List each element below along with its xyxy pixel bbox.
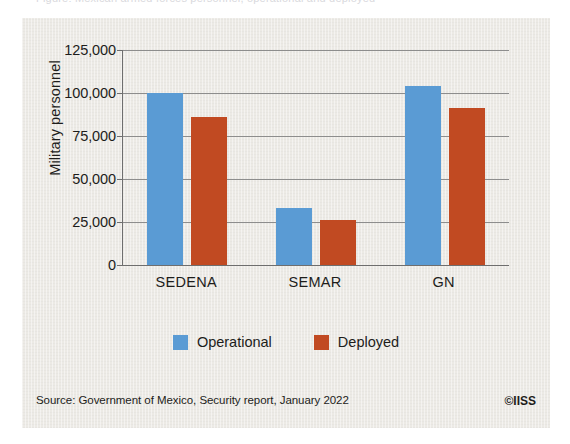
chart-legend: OperationalDeployed (22, 334, 550, 350)
y-axis-tickmark (117, 93, 123, 94)
y-axis-tickmark (117, 265, 123, 266)
bar-sedena-deployed[interactable] (191, 117, 227, 265)
cut-off-caption-text: Figure: Mexican armed forces personnel, … (36, 0, 375, 4)
y-axis-tick-label: 100,000 (38, 85, 116, 101)
bar-group-semar (276, 50, 356, 265)
cut-off-caption-strip: Figure: Mexican armed forces personnel, … (0, 0, 570, 14)
bar-sedena-operational[interactable] (147, 93, 183, 265)
bar-semar-operational[interactable] (276, 208, 312, 265)
y-axis-tickmark (117, 136, 123, 137)
bar-gn-operational[interactable] (405, 86, 441, 265)
y-axis-tick-label: 75,000 (38, 128, 116, 144)
bar-group-sedena (147, 50, 227, 265)
source-note: Source: Government of Mexico, Security r… (36, 394, 349, 406)
legend-swatch-icon (314, 335, 329, 350)
legend-item-deployed[interactable]: Deployed (314, 334, 399, 350)
bar-group-gn (405, 50, 485, 265)
legend-item-operational[interactable]: Operational (173, 334, 272, 350)
x-axis-tick-label-gn: GN (374, 274, 514, 290)
chart-plot-wrapper: Military personnel 025,00050,00075,00010… (22, 18, 550, 318)
y-axis-tickmark (117, 179, 123, 180)
bar-semar-deployed[interactable] (320, 220, 356, 265)
legend-label: Deployed (338, 334, 399, 350)
figure-panel: Military personnel 025,00050,00075,00010… (22, 18, 550, 428)
bar-gn-deployed[interactable] (449, 108, 485, 265)
plot-area (122, 50, 509, 266)
y-axis-tickmark (117, 222, 123, 223)
copyright-label: ©IISS (504, 394, 536, 408)
y-axis-tick-label: 50,000 (38, 171, 116, 187)
y-axis-tick-label: 125,000 (38, 42, 116, 58)
x-axis-tick-label-semar: SEMAR (245, 274, 385, 290)
y-axis-tick-label: 0 (38, 257, 116, 273)
y-axis-tickmark (117, 50, 123, 51)
figure-footer: Source: Government of Mexico, Security r… (22, 394, 550, 412)
x-axis-tick-label-sedena: SEDENA (116, 274, 256, 290)
legend-swatch-icon (173, 335, 188, 350)
y-axis-tick-label: 25,000 (38, 214, 116, 230)
y-axis-tick-labels: 025,00050,00075,000100,000125,000 (38, 18, 116, 318)
legend-label: Operational (197, 334, 272, 350)
